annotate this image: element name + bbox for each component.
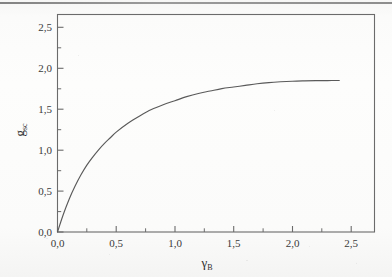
y-axis-minor-ticks bbox=[58, 48, 62, 212]
y-tick-label: 1,0 bbox=[38, 144, 52, 156]
chart-svg: 2,5 2,0 1,5 1,0 0,5 0,0 0,0 0,5 1,0 1,5 … bbox=[0, 0, 392, 277]
y-tick-label: 0,5 bbox=[38, 185, 52, 197]
x-tick-label: 0,5 bbox=[109, 237, 123, 249]
x-axis-minor-ticks bbox=[87, 228, 322, 232]
x-axis-tick-labels: 0,0 0,5 1,0 1,5 2,0 2,5 bbox=[51, 237, 359, 249]
svg-text:gsc: gsc bbox=[12, 123, 29, 137]
y-tick-label: 2,0 bbox=[38, 62, 52, 74]
y-axis-title-subscript: sc bbox=[20, 123, 29, 130]
x-tick-label: 0,0 bbox=[51, 237, 65, 249]
x-axis-title: γB bbox=[200, 255, 212, 272]
y-tick-label: 1,5 bbox=[38, 103, 52, 115]
y-axis-tick-labels: 2,5 2,0 1,5 1,0 0,5 0,0 bbox=[38, 21, 52, 238]
y-axis-title: gsc bbox=[12, 123, 29, 137]
x-tick-label: 2,5 bbox=[344, 237, 358, 249]
x-tick-label: 1,0 bbox=[168, 237, 182, 249]
plot-frame bbox=[58, 15, 375, 233]
x-axis-title-subscript: B bbox=[207, 263, 212, 272]
x-tick-label: 2,0 bbox=[286, 237, 300, 249]
x-tick-label: 1,5 bbox=[227, 237, 241, 249]
y-tick-label: 2,5 bbox=[38, 21, 52, 33]
data-series-curve bbox=[58, 80, 340, 232]
figure-panel: 2,5 2,0 1,5 1,0 0,5 0,0 0,0 0,5 1,0 1,5 … bbox=[0, 0, 392, 277]
